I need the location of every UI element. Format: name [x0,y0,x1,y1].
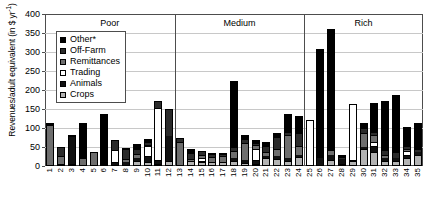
bar-segment-remittances [295,146,303,154]
bar-segment-other [295,116,303,133]
x-tick-label: 25 [306,168,314,177]
y-axis-title-tail: ) [7,3,17,6]
x-tick-label: 8 [122,168,130,172]
bar-segment-crops [46,165,54,166]
bar-segment-crops [327,160,335,166]
x-tick-label: 32 [381,168,389,177]
bar-segment-crops [154,164,162,166]
legend-item-offfarm: Off-Farm [60,45,120,56]
y-tick-label: 300 [25,48,40,57]
bar-stack [57,147,65,166]
bar-segment-offfarm [165,109,173,136]
x-tick-label: 3 [68,168,76,172]
bar-stack [144,139,152,166]
bar-segment-crops [122,165,130,167]
bar-segment-crops [381,161,389,166]
bar-segment-other [414,123,422,148]
bar-stack [306,120,314,166]
bar-segment-remittances [360,133,368,147]
legend-item-animals: Animals [60,78,120,89]
bar-stack [295,116,303,166]
bar-segment-trading [252,149,260,162]
bar-stack [68,135,76,166]
legend-label-crops: Crops [70,90,94,99]
x-tick-label: 14 [187,168,195,177]
bar-stack [187,149,195,166]
bar-stack [338,155,346,166]
legend-label-other: Other* [70,35,96,44]
x-tick-label: 15 [198,168,206,177]
bar-segment-offfarm [122,149,130,159]
legend-swatch-remittances [60,59,66,65]
bar-segment-other [403,127,411,146]
y-tick-label: 150 [25,105,40,114]
bar-segment-crops [208,162,216,166]
x-tick-label: 24 [295,168,303,177]
x-tick-label: 22 [273,168,281,177]
x-tick-label: 9 [133,168,141,172]
bar-segment-other [327,29,335,150]
x-tick-label: 1 [46,168,54,172]
bar-segment-crops [111,165,119,166]
bar-segment-crops [360,149,368,166]
x-tick-label: 13 [176,168,184,177]
bar-segment-offfarm [111,140,119,150]
bar-segment-other [230,81,238,147]
bar-stack [392,95,400,166]
bar-stack [262,142,270,166]
x-tick-label: 27 [327,168,335,177]
x-tick-label: 21 [262,168,270,177]
y-axis-title: Revenues/adult equivalent (in $ yr-1) [5,0,17,145]
y-tick-label: 250 [25,67,40,76]
bar-stack [46,123,54,166]
bar-segment-crops [262,158,270,166]
bar-segment-crops [349,161,357,166]
bar-stack [111,140,119,166]
bar-stack [349,104,357,166]
bar-stack [90,152,98,166]
x-tick-label: 18 [230,168,238,177]
x-tick-label: 29 [349,168,357,177]
bar-segment-crops [252,164,260,166]
y-tick-label: 50 [30,143,40,152]
legend-label-trading: Trading [70,68,100,77]
bar-segment-other [284,114,292,131]
bar-stack [370,103,378,166]
y-tick-label: 400 [25,10,40,19]
bar-segment-remittances [79,158,87,165]
x-tick-label: 26 [316,168,324,177]
y-tick-label: 350 [25,29,40,38]
bar-segment-crops [90,165,98,166]
group-title-rich: Rich [355,18,373,28]
x-tick-label: 33 [392,168,400,177]
legend-swatch-offfarm [60,48,66,54]
chart-figure: Revenues/adult equivalent (in $ yr-1) 05… [0,0,432,213]
group-title-medium: Medium [223,18,255,28]
x-tick-label: 23 [284,168,292,177]
bar-stack [381,101,389,166]
bar-segment-remittances [370,135,378,142]
bar-segment-crops [187,161,195,166]
y-axis-title-exponent: -1 [5,6,12,12]
bar-stack [100,114,108,166]
bar-segment-offfarm [262,146,270,153]
bar-stack [198,151,206,166]
bar-segment-crops [338,164,346,166]
legend-label-offfarm: Off-Farm [70,46,106,55]
bar-stack [122,148,130,166]
bar-stack [165,109,173,166]
y-tick-label: 100 [25,124,40,133]
y-tick-label: 200 [25,86,40,95]
x-tick-label: 7 [111,168,119,172]
bar-stack [403,127,411,166]
legend-swatch-animals [60,81,66,87]
group-title-poor: Poor [100,18,119,28]
bar-segment-offfarm [57,147,65,155]
legend-item-other: Other* [60,34,120,45]
bar-segment-crops [370,152,378,166]
bar-stack [252,140,260,166]
bar-segment-crops [100,165,108,166]
y-tick-mark [42,166,45,167]
bar-stack [241,135,249,166]
bar-segment-crops [144,162,152,166]
